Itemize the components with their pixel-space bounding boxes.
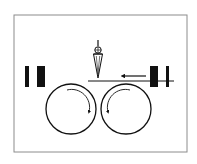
right-guide-bar-wide	[150, 66, 158, 87]
left-guide-bar-thin	[25, 66, 29, 87]
left-guide-bar-wide	[37, 66, 45, 87]
roller-cutter-diagram	[0, 0, 197, 164]
right-guide-bar-thin	[166, 66, 169, 87]
